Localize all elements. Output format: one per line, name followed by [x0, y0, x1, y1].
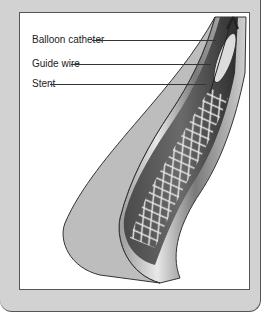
- leader-line-balloon-catheter: [92, 40, 216, 41]
- leader-line-guide-wire: [71, 64, 211, 65]
- artery-stent-illustration: [20, 13, 250, 290]
- leader-line-stent: [50, 84, 206, 85]
- illustration-panel: [19, 12, 250, 290]
